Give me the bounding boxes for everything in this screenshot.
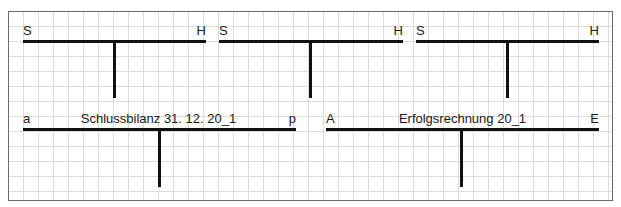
t-account-stem (113, 40, 116, 98)
debit-label: S (416, 24, 425, 38)
t-account-stem (460, 128, 463, 187)
t-account-3: S H (416, 23, 599, 99)
t-account-1: S H (23, 23, 206, 99)
t-account-stem (309, 40, 312, 98)
credit-label: H (394, 24, 403, 38)
passiven-label: p (289, 112, 296, 126)
t-account-stem (506, 40, 509, 98)
credit-label: H (590, 24, 599, 38)
t-account-2: S H (219, 23, 403, 99)
schlussbilanz-account: a Schlussbilanz 31. 12. 20_1 p (23, 111, 296, 188)
debit-label: S (219, 24, 228, 38)
t-account-stem (158, 128, 161, 187)
erfolgsrechnung-account: A Erfolgsrechnung 20_1 E (326, 111, 599, 188)
debit-label: S (23, 24, 32, 38)
credit-label: H (197, 24, 206, 38)
ertrag-label: E (590, 112, 599, 126)
schlussbilanz-title: Schlussbilanz 31. 12. 20_1 (21, 112, 296, 126)
erfolgsrechnung-title: Erfolgsrechnung 20_1 (326, 112, 599, 126)
